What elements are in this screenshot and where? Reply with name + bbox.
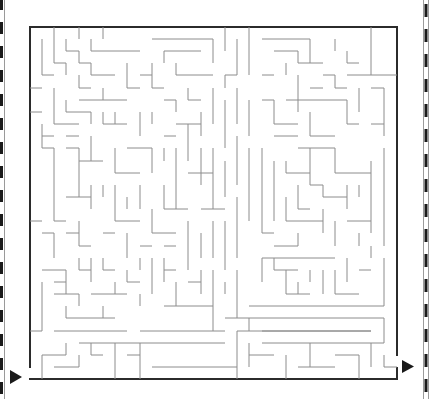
exit-arrow-icon [402,360,414,373]
maze-inner-walls [30,27,397,379]
maze-page: Rectangular maze puzzle [0,0,429,399]
entrance-arrow-icon [10,370,22,384]
maze [0,0,429,399]
